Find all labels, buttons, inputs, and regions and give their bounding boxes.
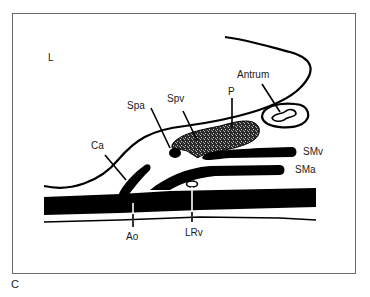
orientation-label: L	[48, 53, 54, 63]
label-spv: Spv	[167, 94, 184, 104]
panel-label: C	[11, 278, 19, 290]
antrum-shape	[262, 104, 308, 128]
label-antrum: Antrum	[237, 70, 269, 80]
celiac-artery	[118, 164, 151, 196]
label-sma: SMa	[295, 165, 316, 175]
posterior-line	[44, 217, 316, 222]
splenic-artery	[169, 148, 181, 158]
label-smv: SMv	[303, 147, 323, 157]
label-p: P	[228, 87, 235, 97]
label-ao: Ao	[126, 232, 138, 242]
left-renal-vein	[187, 181, 198, 187]
label-spa: Spa	[127, 101, 145, 111]
aorta	[44, 188, 316, 215]
label-ca: Ca	[91, 141, 104, 151]
organ-outline-curve	[44, 37, 311, 188]
superior-mesenteric-artery	[150, 165, 285, 190]
label-lrv: LRv	[185, 228, 203, 238]
